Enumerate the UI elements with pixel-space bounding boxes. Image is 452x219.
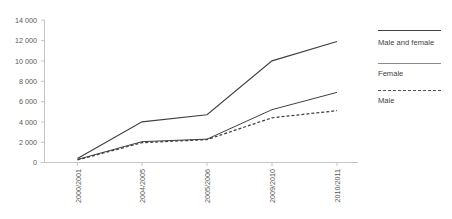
y-tick-label: 14 000 — [15, 16, 37, 25]
y-tick-label: 12 000 — [15, 36, 37, 45]
x-tick-label: 2004/2005 — [138, 169, 147, 203]
y-tick-label: 10 000 — [15, 57, 37, 66]
y-tick-label: 6 000 — [19, 97, 37, 106]
x-tick-label: 2000/2001 — [74, 169, 83, 203]
chart-legend: Male and female Female Male — [378, 31, 441, 106]
series-line-male — [78, 111, 338, 160]
x-tick-label: 2010/2011 — [333, 169, 342, 202]
x-axis-tick-labels: 2000/2001 2004/2005 2005/2006 2009/2010 … — [74, 169, 343, 203]
y-tick-label: 4 000 — [19, 118, 37, 127]
series-group — [78, 42, 338, 160]
y-tick-label: 0 — [33, 158, 37, 167]
y-tick-label: 8 000 — [19, 77, 37, 86]
line-chart: 14 000 12 000 10 000 8 000 6 000 4 000 2… — [0, 0, 452, 219]
legend-item-female[interactable]: Female — [378, 64, 441, 79]
series-line-male-and-female — [78, 42, 338, 159]
y-tick-label: 2 000 — [19, 138, 37, 147]
chart-container: 14 000 12 000 10 000 8 000 6 000 4 000 2… — [0, 0, 452, 219]
x-tick-label: 2005/2006 — [203, 169, 212, 203]
legend-item-male[interactable]: Male — [378, 91, 441, 106]
legend-item-male-and-female[interactable]: Male and female — [378, 31, 441, 48]
legend-label: Male and female — [378, 38, 434, 47]
legend-label: Female — [378, 69, 403, 78]
y-axis-tick-labels: 14 000 12 000 10 000 8 000 6 000 4 000 2… — [15, 16, 37, 167]
y-axis-ticks — [41, 20, 45, 162]
x-axis-ticks — [78, 163, 338, 167]
legend-label: Male — [378, 96, 394, 105]
x-tick-label: 2009/2010 — [268, 169, 277, 203]
